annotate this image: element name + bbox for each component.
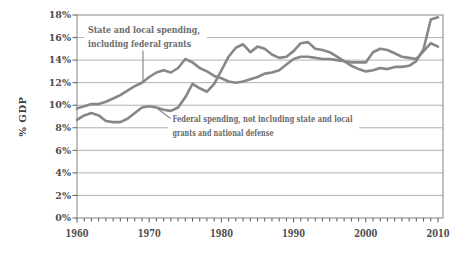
y-tick-label: 18% <box>49 9 71 20</box>
annotations: State and local spending,including feder… <box>84 21 359 142</box>
y-tick-label: 14% <box>49 54 71 65</box>
x-tick-label: 2000 <box>354 227 377 239</box>
annotation-federal-line1: Federal spending, not including state an… <box>173 113 353 125</box>
x-tick-label: 1960 <box>66 227 89 239</box>
x-tick-label: 1990 <box>282 227 305 239</box>
y-tick-label: 4% <box>55 167 71 178</box>
y-tick-label: 16% <box>49 32 71 43</box>
annotation-state-local-line1: State and local spending, <box>88 24 200 36</box>
annotation-federal-line2: grants and national defense <box>173 127 274 138</box>
gdp-spending-line-chart: 0%2%4%6%8%10%12%14%16%18%196019701980199… <box>0 0 461 255</box>
annotation-state-local-line2: including federal grants <box>88 38 191 49</box>
y-tick-label: 8% <box>55 122 71 133</box>
x-tick-label: 1980 <box>210 227 233 239</box>
x-tick-label: 1970 <box>138 227 161 239</box>
y-tick-label: 12% <box>49 77 71 88</box>
y-tick-label: 6% <box>55 145 71 156</box>
y-axis-title: % GDP <box>17 96 28 136</box>
y-tick-label: 2% <box>55 190 71 201</box>
y-tick-label: 0% <box>55 212 71 223</box>
y-tick-label: 10% <box>49 99 71 110</box>
chart-canvas: 0%2%4%6%8%10%12%14%16%18%196019701980199… <box>0 0 461 255</box>
x-tick-label: 2010 <box>427 227 450 239</box>
